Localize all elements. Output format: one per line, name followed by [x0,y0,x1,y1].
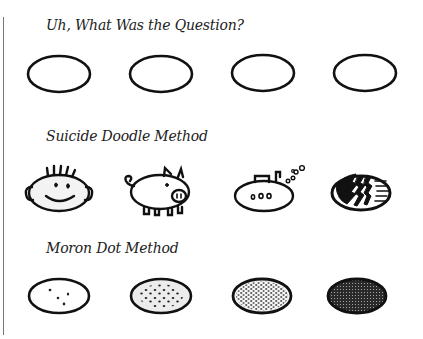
sparse-dots-oval [29,279,89,313]
dense-dots-oval [233,279,291,313]
dot-ovals-row [0,0,423,339]
filled-dots-oval [328,279,386,313]
medium-dots-oval [131,279,191,313]
page: Uh, What Was the Question? Suicide Doodl… [0,0,423,339]
